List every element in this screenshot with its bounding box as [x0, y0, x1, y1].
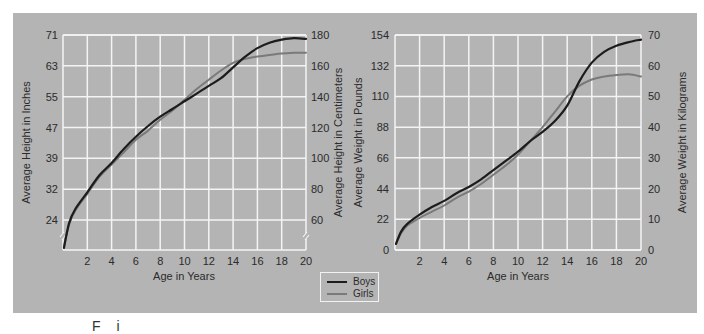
x-axis-label: Age in Years	[487, 270, 549, 282]
y-left-tick-label: 132	[371, 60, 389, 72]
x-tick-label: 20	[635, 255, 647, 267]
y-right-tick-label: 60	[311, 214, 323, 226]
y-left-tick-label: 39	[46, 152, 58, 164]
y-left-tick-label: 88	[377, 121, 389, 133]
grid	[395, 35, 641, 250]
x-tick-label: 12	[203, 255, 215, 267]
x-tick-label: 6	[133, 255, 139, 267]
y-left-tick-label: 110	[371, 90, 389, 102]
x-tick-label: 16	[251, 255, 263, 267]
y-left-tick-label: 47	[46, 122, 58, 134]
y-right-tick-label: 120	[311, 122, 329, 134]
x-tick-label: 12	[536, 255, 548, 267]
x-tick-label: 14	[561, 255, 573, 267]
y-left-tick-label: 66	[377, 152, 389, 164]
weight-chart: 2468101214161820154701326011050884066304…	[352, 29, 688, 282]
y-right-tick-label: 180	[311, 29, 329, 41]
legend-label-girls: Girls	[353, 288, 374, 300]
y-left-tick-label: 22	[377, 213, 389, 225]
figure-caption-fragment: F i	[92, 318, 126, 334]
y-right-tick-label: 10	[648, 213, 660, 225]
x-tick-label: 2	[84, 255, 90, 267]
y-left-tick-label: 154	[371, 29, 389, 41]
y-left-tick-label: 32	[46, 183, 58, 195]
x-tick-label: 20	[300, 255, 312, 267]
legend-item-boys: Boys	[327, 276, 375, 288]
x-tick-label: 14	[227, 255, 239, 267]
y-right-tick-label: 60	[648, 60, 660, 72]
y-right-tick-label: 20	[648, 183, 660, 195]
y-left-tick-label: 55	[46, 91, 58, 103]
grid	[63, 35, 306, 250]
y-right-axis-label: Average Height in Centimeters	[332, 67, 344, 217]
x-tick-label: 10	[512, 255, 524, 267]
y-left-tick-label: 24	[46, 214, 58, 226]
legend-label-boys: Boys	[353, 276, 375, 288]
y-right-tick-label: 50	[648, 90, 660, 102]
x-tick-label: 4	[109, 255, 115, 267]
y-right-tick-label: 100	[311, 152, 329, 164]
y-right-tick-label: 0	[648, 244, 654, 256]
x-tick-label: 2	[417, 255, 423, 267]
x-tick-label: 6	[466, 255, 472, 267]
x-axis-label: Age in Years	[153, 270, 215, 282]
x-tick-label: 18	[276, 255, 288, 267]
x-tick-label: 18	[610, 255, 622, 267]
y-left-tick-label: 63	[46, 60, 58, 72]
x-tick-label: 10	[178, 255, 190, 267]
y-right-tick-label: 70	[648, 29, 660, 41]
y-left-tick-label: 71	[46, 29, 58, 41]
y-left-axis-label: Average Height in Inches	[20, 81, 32, 204]
y-right-axis-label: Average Weight in Kilograms	[676, 71, 688, 213]
y-left-tick-label: 0	[383, 244, 389, 256]
y-right-tick-label: 80	[311, 183, 323, 195]
legend-swatch-boys	[327, 281, 347, 284]
legend-item-girls: Girls	[327, 288, 374, 300]
x-tick-label: 8	[490, 255, 496, 267]
x-tick-label: 8	[157, 255, 163, 267]
y-left-tick-label: 44	[377, 183, 389, 195]
y-right-tick-label: 30	[648, 152, 660, 164]
y-right-tick-label: 160	[311, 60, 329, 72]
legend: Boys Girls	[320, 272, 379, 302]
height-chart: 2468101214161820711806316055140471203910…	[20, 29, 344, 282]
y-right-tick-label: 140	[311, 91, 329, 103]
y-left-axis-label: Average Weight in Pounds	[352, 77, 364, 207]
x-tick-label: 4	[441, 255, 447, 267]
y-right-tick-label: 40	[648, 121, 660, 133]
x-tick-label: 16	[586, 255, 598, 267]
legend-swatch-girls	[327, 293, 347, 296]
